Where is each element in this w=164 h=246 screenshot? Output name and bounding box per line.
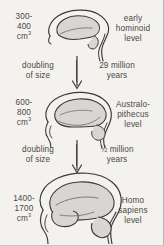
down-arrow-icon-0 [70, 56, 84, 92]
species-line-2: hominoid [105, 24, 161, 34]
transition-right-line-2: years [84, 71, 150, 81]
transition-right-label-1: ½ million years [84, 145, 150, 166]
volume-unit-superscript: 3 [28, 31, 31, 37]
volume-unit-text: cm [17, 214, 28, 223]
transition-left-label-1: doubling of size [8, 145, 68, 166]
transition-right-label-0: 29 million years [84, 61, 150, 82]
species-line-1: Australo- [105, 100, 161, 110]
species-label-early-hominoid: early hominoid level [105, 14, 161, 45]
brain-evolution-figure: 300- 400 cm3 early hominoid level [0, 0, 164, 246]
volume-unit-text: cm [17, 32, 28, 41]
stage-homo-sapiens: 1400- 1700 cm3 [0, 176, 164, 244]
transition-australopithecus-to-homo-sapiens: doubling of size ½ million years [0, 144, 164, 174]
transition-left-line-1: doubling [8, 145, 68, 155]
volume-line-1: 300- [2, 12, 46, 22]
transition-left-line-2: of size [8, 155, 68, 165]
transition-right-line-2: years [84, 155, 150, 165]
volume-unit-text: cm [17, 118, 28, 127]
species-line-3: level [105, 216, 161, 226]
species-line-3: level [105, 34, 161, 44]
species-line-2: sapiens [105, 206, 161, 216]
volume-unit-superscript: 3 [28, 213, 31, 219]
species-line-2: pithecus [105, 110, 161, 120]
transition-left-label-0: doubling of size [8, 61, 68, 82]
species-line-1: Homo [105, 196, 161, 206]
transition-right-line-1: 29 million [84, 61, 150, 71]
volume-line-2: 400 [2, 22, 46, 32]
transition-early-hominoid-to-australopithecus: doubling of size 29 million years [0, 60, 164, 90]
transition-left-line-1: doubling [8, 61, 68, 71]
species-line-3: level [105, 120, 161, 130]
species-label-australopithecus: Australo- pithecus level [105, 100, 161, 131]
volume-unit-superscript: 3 [28, 117, 31, 123]
volume-label-early-hominoid: 300- 400 cm3 [2, 12, 46, 43]
down-arrow-icon-1 [70, 140, 84, 176]
transition-left-line-2: of size [8, 71, 68, 81]
volume-unit: cm3 [2, 32, 46, 42]
brain-illustration-homo-sapiens [34, 172, 110, 244]
transition-right-line-1: ½ million [84, 145, 150, 155]
species-label-homo-sapiens: Homo sapiens level [105, 196, 161, 227]
species-line-1: early [105, 14, 161, 24]
